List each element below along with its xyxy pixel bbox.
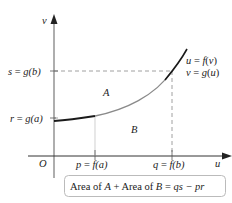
- s-label: s = g(b): [8, 66, 41, 78]
- y-axis-label: v: [42, 15, 47, 26]
- p-label: p = f(a): [75, 159, 108, 171]
- curve-label-u: u = f(v): [186, 55, 218, 67]
- curve-segment-right: [165, 49, 187, 80]
- region-a-label: A: [102, 87, 110, 98]
- origin-label: O: [39, 158, 47, 169]
- formula-text: Area of A + Area of B = qs − pr: [70, 181, 205, 192]
- q-label: q = f(b): [153, 159, 185, 171]
- x-axis-label: u: [215, 158, 220, 169]
- r-label: r = g(a): [10, 113, 43, 125]
- curve-segment-left: [54, 116, 95, 121]
- region-b-label: B: [131, 124, 138, 135]
- integral-inverse-diagram: v u O s = g(b) r = g(a) p = f(a) q = f(b…: [0, 0, 232, 203]
- y-axis-arrow-icon: [51, 14, 58, 24]
- x-axis-arrow-icon: [222, 153, 232, 160]
- curve-label-v: v = g(u): [186, 67, 220, 79]
